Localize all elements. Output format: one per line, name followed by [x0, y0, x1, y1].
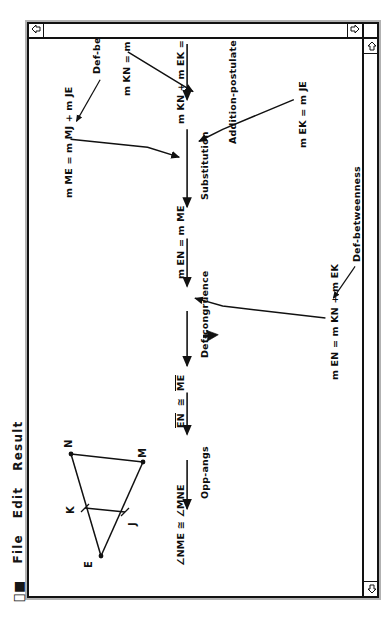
proof-reason-addition-postulate-text: Addition-postulate — [227, 40, 238, 144]
proof-node-en-betweenness-text: m EN = m KN + m EK — [329, 264, 340, 380]
window-content-area[interactable]: E K J N M — [29, 39, 362, 596]
scrollbar-corner — [362, 24, 377, 39]
vertex-label-j: J — [127, 522, 138, 526]
scroll-up-arrow-icon[interactable] — [29, 22, 44, 37]
proof-reason-substitution-text: Substitution — [199, 131, 210, 200]
proof-node-en-betweenness: m EN = m KN + m EK — [329, 264, 340, 380]
proof-reason-def-betweenness-1-text: Def-betweenness — [351, 166, 362, 262]
proof-node-me-betweenness-text: m ME = m MJ + m JE — [63, 87, 74, 198]
proof-reason-opp-angs-text: Opp-angs — [199, 446, 210, 499]
vertex-label-n: N — [63, 440, 74, 448]
proof-node-conclusion-text: ∠NME ≅ ∠MNE — [175, 484, 186, 566]
proof-reason-def-congruence: Def-congruence — [199, 271, 210, 359]
proof-reason-def-congruence-text: Def-congruence — [199, 271, 210, 359]
vertex-label-k: K — [65, 506, 76, 514]
congruence-symbol: ≅ — [175, 394, 186, 409]
proof-reason-def-betweenness-1: Def-betweenness — [351, 166, 362, 262]
proof-node-conclusion: ∠NME ≅ ∠MNE — [175, 484, 186, 566]
cursor-icon — [203, 328, 219, 342]
vertical-scroll-track[interactable] — [44, 24, 347, 37]
proof-node-men-eq-mme-text: m EN = m ME — [175, 205, 186, 279]
menu-bar[interactable]: ■ File Edit Result — [8, 2, 28, 610]
segment-me: ME — [175, 375, 186, 391]
proof-reason-addition-postulate: Addition-postulate — [227, 40, 238, 144]
proof-reason-def-betweenness-2: Def-betweenness — [91, 39, 102, 74]
proof-reason-substitution: Substitution — [199, 131, 210, 200]
proof-node-en-cong-me: EN ≅ ME — [175, 375, 186, 428]
proof-node-me-betweenness: m ME = m MJ + m JE — [63, 87, 74, 198]
rotated-screen-wrapper: ■ File Edit Result — [0, 0, 388, 620]
proof-node-addition-sums: m KN + m EK = m MJ + m JE — [175, 39, 186, 124]
proof-node-addition-sums-text: m KN + m EK = m MJ + m JE — [175, 39, 186, 124]
vertical-scrollbar[interactable] — [29, 24, 362, 39]
macintosh-screen: ■ File Edit Result — [0, 0, 388, 620]
arrow-pointer-cursor — [203, 328, 219, 342]
scroll-right-arrow-icon[interactable] — [364, 39, 379, 54]
horizontal-scrollbar[interactable] — [362, 39, 377, 596]
proof-node-mkn-eq-mmj-text: m KN = m MJ — [121, 39, 132, 96]
document-window: E K J N M — [27, 22, 379, 598]
proof-node-mek-eq-mje: m EK = m JE — [297, 81, 308, 148]
proof-node-men-eq-mme: m EN = m ME — [175, 205, 186, 279]
horizontal-scroll-track[interactable] — [364, 54, 377, 581]
vertex-label-m: M — [137, 448, 148, 458]
proof-node-mkn-eq-mmj: m KN = m MJ — [121, 39, 132, 96]
proof-reason-def-betweenness-2-text: Def-betweenness — [91, 39, 102, 74]
proof-node-mek-eq-mje-text: m EK = m JE — [297, 81, 308, 148]
scroll-down-arrow-icon[interactable] — [347, 22, 362, 37]
apple-menu-icon[interactable]: ■ — [12, 580, 25, 602]
proof-reason-opp-angs: Opp-angs — [199, 446, 210, 499]
segment-en: EN — [175, 413, 186, 428]
menu-item-file[interactable]: File — [11, 534, 25, 563]
vertex-label-e: E — [83, 561, 94, 568]
menu-item-edit[interactable]: Edit — [11, 487, 25, 518]
menu-item-result[interactable]: Result — [11, 421, 25, 471]
scroll-left-arrow-icon[interactable] — [364, 581, 379, 596]
triangle-diagram: E K J N M — [53, 420, 149, 570]
